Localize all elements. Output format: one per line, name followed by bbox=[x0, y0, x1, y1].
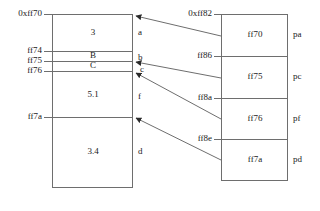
diagram-canvas: 0xff70 ff74 ff75 ff76 ff7a 3 B C 5.1 3.4… bbox=[0, 0, 320, 211]
right-cell-value-3: ff7a bbox=[222, 155, 288, 164]
left-cell-value-3: 5.1 bbox=[53, 90, 133, 99]
arrow-pa-to-ff70 bbox=[136, 16, 221, 36]
right-cell-value-0: ff70 bbox=[222, 30, 288, 39]
right-address-2: ff8a bbox=[172, 93, 212, 102]
right-address-1: ff86 bbox=[172, 51, 212, 60]
left-address-3: ff76 bbox=[2, 66, 42, 75]
left-address-ticks bbox=[44, 15, 53, 118]
left-side-tag-c: c bbox=[140, 65, 144, 74]
left-address-1: ff74 bbox=[2, 46, 42, 55]
right-address-0: 0xff82 bbox=[172, 9, 212, 18]
left-cell-value-2: C bbox=[53, 61, 133, 70]
left-side-tag-f: f bbox=[138, 92, 141, 101]
left-address-4: ff7a bbox=[2, 112, 42, 121]
left-cell-value-1: B bbox=[53, 51, 133, 60]
left-cell-value-0: 3 bbox=[53, 28, 133, 37]
right-side-tag-pf: pf bbox=[293, 114, 301, 123]
right-side-tag-pa: pa bbox=[293, 30, 302, 39]
left-side-tag-d: d bbox=[138, 147, 143, 156]
left-address-2: ff75 bbox=[2, 56, 42, 65]
right-cell-value-2: ff76 bbox=[222, 114, 288, 123]
left-box-outline bbox=[53, 15, 133, 188]
left-cell-value-4: 3.4 bbox=[53, 147, 133, 156]
arrow-pc-to-ff75 bbox=[136, 62, 221, 78]
left-side-tag-a: a bbox=[138, 28, 142, 37]
left-side-tag-b: b bbox=[138, 53, 143, 62]
right-side-tag-pc: pc bbox=[293, 72, 302, 81]
right-side-tag-pd: pd bbox=[293, 155, 302, 164]
right-address-3: ff8e bbox=[172, 134, 212, 143]
right-cell-value-1: ff75 bbox=[222, 72, 288, 81]
left-address-0: 0xff70 bbox=[2, 9, 42, 18]
